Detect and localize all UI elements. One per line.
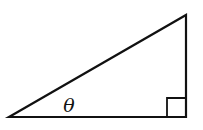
angle-theta-label: θ bbox=[63, 94, 75, 116]
triangle bbox=[9, 15, 186, 117]
right-triangle-diagram: θ bbox=[0, 0, 203, 130]
right-angle-marker bbox=[167, 98, 186, 117]
